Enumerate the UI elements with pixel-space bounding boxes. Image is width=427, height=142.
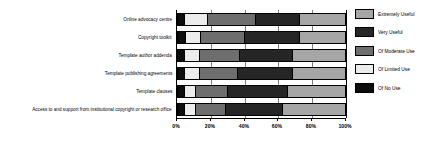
bar-row (177, 31, 346, 44)
bar-segment (200, 68, 238, 79)
legend-item[interactable]: Of Moderate Use (355, 45, 418, 56)
bar-segment (178, 50, 185, 61)
legend-label: Very Useful (378, 29, 403, 35)
bar-segment (228, 86, 288, 97)
axis-tick (210, 118, 211, 121)
bar-segment (185, 86, 197, 97)
bar-segment (293, 50, 345, 61)
bar-segment (300, 32, 345, 43)
axis-tick-label: 100% (334, 123, 357, 130)
bar-segment (288, 86, 345, 97)
bar-segment (293, 68, 345, 79)
plot-area (176, 10, 347, 118)
category-label: Access to and support from institutional… (32, 106, 172, 112)
bar-row (177, 67, 346, 80)
bar-segment (185, 68, 200, 79)
bar-segment (196, 104, 226, 115)
bar-segment (245, 32, 300, 43)
category-label: Template publishing agreements (105, 70, 172, 76)
bar-segment (283, 104, 345, 115)
legend-swatch (355, 83, 374, 93)
bar-series-group (177, 10, 346, 118)
stacked-bar-chart: Online advocacy centreCopyright toolkitT… (0, 0, 427, 142)
category-axis: Online advocacy centreCopyright toolkitT… (0, 10, 174, 118)
legend-swatch (355, 27, 374, 37)
axis-tick (345, 118, 346, 121)
bar-segment (300, 14, 345, 25)
axis-tick (277, 118, 278, 121)
legend-swatch (355, 46, 374, 56)
legend-item[interactable]: Very Useful (355, 27, 405, 38)
bar-segment (185, 104, 197, 115)
bar-row (177, 85, 346, 98)
bar-segment (238, 68, 293, 79)
chart-legend: Extremely UsefulVery UsefulOf Moderate U… (355, 8, 427, 103)
bar-segment (200, 50, 240, 61)
legend-item[interactable]: Of Limited Use (355, 64, 412, 75)
bar-row (177, 49, 346, 62)
bar-row (177, 103, 346, 116)
bar-segment (226, 104, 283, 115)
legend-label: Of Limited Use (378, 66, 410, 72)
category-label: Template author addenda (119, 52, 172, 58)
bar-segment (178, 68, 185, 79)
value-axis-line (176, 118, 346, 119)
category-label: Online advocacy centre (123, 16, 172, 22)
legend-item[interactable]: Of No Use (355, 82, 402, 93)
axis-tick-label: 20% (198, 123, 221, 130)
axis-tick-label: 60% (266, 123, 289, 130)
legend-label: Of Moderate Use (378, 48, 415, 54)
category-label: Copyright toolkit (138, 34, 172, 40)
bar-segment (178, 86, 185, 97)
axis-tick-label: 40% (232, 123, 255, 130)
legend-label: Of No Use (378, 85, 401, 91)
bar-segment (256, 14, 299, 25)
axis-tick-label: 80% (300, 123, 323, 130)
bar-segment (178, 32, 186, 43)
bar-segment (240, 50, 293, 61)
bar-segment (185, 14, 208, 25)
bar-segment (178, 104, 185, 115)
axis-tick (311, 118, 312, 121)
axis-tick (244, 118, 245, 121)
category-label: Template clauses (136, 88, 172, 94)
bar-segment (185, 50, 200, 61)
bar-segment (201, 32, 244, 43)
legend-item[interactable]: Extremely Useful (355, 8, 417, 19)
legend-swatch (355, 9, 374, 19)
bar-segment (186, 32, 201, 43)
legend-label: Extremely Useful (378, 11, 414, 17)
bar-row (177, 13, 346, 26)
bar-segment (196, 86, 228, 97)
bar-segment (208, 14, 256, 25)
axis-tick-label: 0% (165, 123, 188, 130)
bar-segment (178, 14, 185, 25)
axis-tick (176, 118, 177, 121)
legend-swatch (355, 64, 374, 74)
